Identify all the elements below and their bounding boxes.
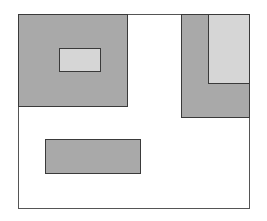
top-right-inner-block — [208, 14, 250, 84]
top-left-inner-block — [59, 48, 101, 72]
bottom-block — [45, 139, 141, 174]
